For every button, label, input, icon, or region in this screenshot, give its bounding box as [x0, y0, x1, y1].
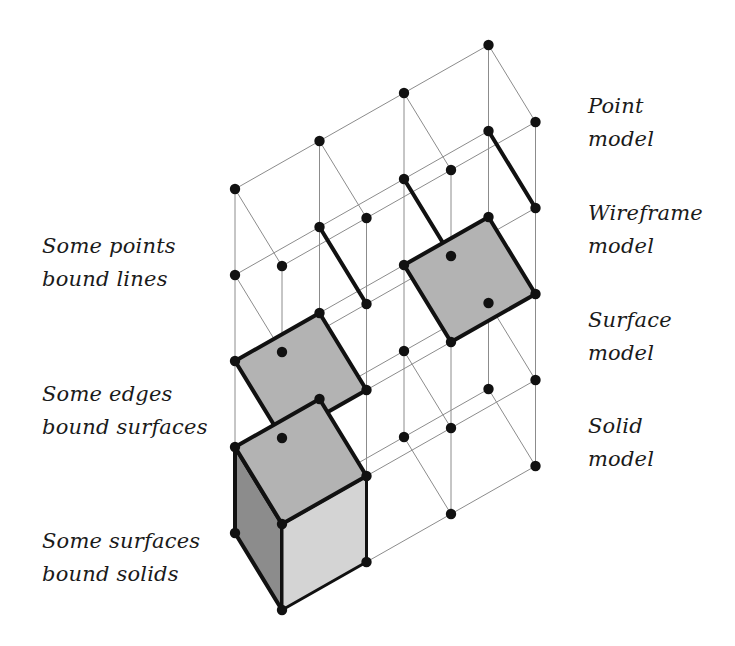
lattice-point — [230, 442, 240, 452]
label-point-model: Point model — [588, 90, 654, 156]
label-line: bound surfaces — [42, 411, 208, 444]
lattice-point — [277, 347, 287, 357]
label-line: Some surfaces — [42, 525, 200, 558]
lattice-point — [361, 471, 371, 481]
label-line: Surface — [588, 304, 672, 337]
lattice-line — [320, 141, 367, 218]
wireframe-edge — [489, 131, 536, 208]
lattice-point — [230, 356, 240, 366]
lattice-point — [361, 299, 371, 309]
lattice-point — [399, 346, 409, 356]
lattice-point — [230, 528, 240, 538]
lattice-point — [314, 308, 324, 318]
label-line: Some edges — [42, 378, 208, 411]
lattice-point — [314, 394, 324, 404]
lattice-point — [230, 270, 240, 280]
label-surface-model: Surface model — [588, 304, 672, 370]
lattice-point — [483, 40, 493, 50]
lattice-point — [530, 375, 540, 385]
lattice-point — [399, 174, 409, 184]
lattice-point — [399, 432, 409, 442]
label-line: Wireframe — [588, 197, 703, 230]
label-line: bound solids — [42, 558, 200, 591]
lattice-point — [399, 260, 409, 270]
lattice-point — [446, 337, 456, 347]
label-line: model — [588, 123, 654, 156]
lattice-point — [446, 251, 456, 261]
lattice-line — [489, 45, 536, 122]
lattice-point — [483, 298, 493, 308]
wireframe-edge — [320, 227, 367, 304]
lattice-point — [277, 605, 287, 615]
lattice-line — [489, 389, 536, 466]
solid-cube — [235, 399, 367, 610]
lattice-point — [314, 222, 324, 232]
label-surfaces-bound-solids: Some surfaces bound solids — [42, 525, 200, 591]
lattice-point — [361, 213, 371, 223]
surface-face — [404, 217, 536, 342]
lattice-point — [446, 509, 456, 519]
lattice-point — [361, 557, 371, 567]
lattice-point — [446, 423, 456, 433]
lattice-point — [277, 261, 287, 271]
lattice-point — [399, 88, 409, 98]
lattice-point — [361, 385, 371, 395]
label-line: model — [588, 443, 654, 476]
label-line: Solid — [588, 410, 654, 443]
lattice-point — [530, 203, 540, 213]
lattice-line — [235, 189, 282, 266]
lattice-point — [483, 212, 493, 222]
label-solid-model: Solid model — [588, 410, 654, 476]
lattice-line — [404, 351, 451, 428]
lattice-point — [530, 461, 540, 471]
label-wireframe-model: Wireframe model — [588, 197, 703, 263]
lattice-line — [404, 93, 451, 170]
lattice-point — [530, 117, 540, 127]
lattice-point — [483, 384, 493, 394]
label-points-bound-lines: Some points bound lines — [42, 230, 176, 296]
label-line: model — [588, 337, 672, 370]
label-edges-bound-surfaces: Some edges bound surfaces — [42, 378, 208, 444]
lattice-point — [277, 433, 287, 443]
lattice-line — [404, 437, 451, 514]
label-line: Point — [588, 90, 654, 123]
lattice-point — [230, 184, 240, 194]
lattice-point — [446, 165, 456, 175]
lattice-point — [483, 126, 493, 136]
lattice-point — [314, 136, 324, 146]
surface-faces — [235, 217, 536, 438]
lattice-point — [277, 519, 287, 529]
lattice-point — [530, 289, 540, 299]
label-line: Some points — [42, 230, 176, 263]
label-line: bound lines — [42, 263, 176, 296]
label-line: model — [588, 230, 703, 263]
